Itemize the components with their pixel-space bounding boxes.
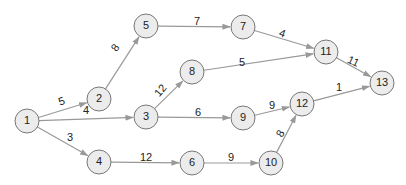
edge-weight-label: 5 (57, 94, 67, 107)
edge-1-3 (39, 117, 133, 120)
node-label: 3 (143, 110, 149, 122)
node-1[interactable]: 1 (15, 109, 39, 133)
edge-1-4 (37, 127, 87, 156)
node-9[interactable]: 9 (231, 106, 255, 130)
diagram-svg: 543871261245998111 12345678910111213 (0, 0, 406, 185)
edge-weight-label: 12 (152, 82, 169, 99)
node-label: 2 (96, 92, 102, 104)
node-label: 8 (189, 65, 195, 77)
edge-weight-label: 4 (277, 26, 287, 39)
edge-weight-label: 12 (140, 151, 152, 163)
node-8[interactable]: 8 (180, 60, 204, 84)
node-2[interactable]: 2 (87, 87, 111, 111)
node-label: 6 (189, 156, 195, 168)
node-3[interactable]: 3 (134, 105, 158, 129)
node-label: 10 (265, 156, 277, 168)
node-label: 13 (376, 76, 388, 88)
node-label: 1 (24, 114, 30, 126)
edge-8-11 (204, 54, 313, 70)
edge-weight-label: 6 (195, 106, 201, 118)
node-label: 9 (240, 111, 246, 123)
network-diagram: 543871261245998111 12345678910111213 (0, 0, 406, 185)
node-10[interactable]: 10 (259, 151, 283, 175)
node-label: 11 (320, 45, 331, 57)
edge-weight-label: 11 (346, 53, 361, 69)
edge-weight-label: 4 (83, 104, 89, 116)
node-12[interactable]: 12 (290, 92, 314, 116)
edge-weight-label: 3 (67, 131, 73, 143)
node-5[interactable]: 5 (134, 14, 158, 38)
node-4[interactable]: 4 (87, 150, 111, 174)
edge-weight-label: 5 (239, 56, 245, 68)
node-label: 7 (240, 20, 246, 32)
edge-weight-label: 9 (228, 151, 234, 163)
edge-weight-label: 9 (269, 99, 275, 111)
node-7[interactable]: 7 (231, 15, 255, 39)
edge-weight-label: 8 (108, 41, 121, 53)
node-6[interactable]: 6 (180, 151, 204, 175)
node-label: 5 (143, 19, 149, 31)
edge-weight-label: 1 (336, 81, 342, 93)
node-label: 4 (96, 155, 102, 167)
edge-weight-label: 7 (194, 15, 200, 27)
node-13[interactable]: 13 (370, 71, 394, 95)
node-label: 12 (296, 97, 308, 109)
node-11[interactable]: 11 (314, 40, 338, 64)
